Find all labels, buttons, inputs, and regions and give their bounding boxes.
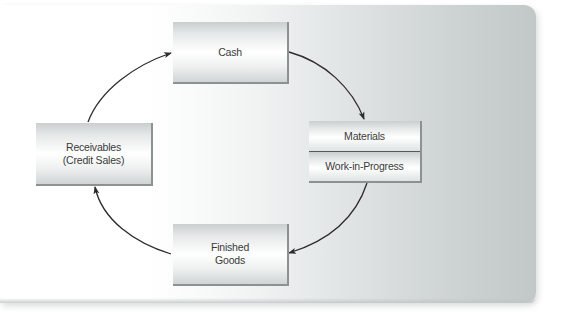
finished-goods-label-line1: Finished	[211, 241, 249, 254]
cash-box: Cash	[173, 22, 289, 84]
materials-wip-box: Materials Work-in-Progress	[309, 121, 422, 183]
panel-bottom-shadow	[0, 298, 536, 303]
receivables-label-line1: Receivables	[66, 141, 121, 154]
materials-label: Materials	[344, 130, 385, 142]
finished-goods-label-line2: Goods	[215, 254, 245, 267]
materials-section: Materials	[309, 121, 420, 151]
receivables-box: Receivables (Credit Sales)	[36, 123, 153, 186]
wip-label: Work-in-Progress	[325, 160, 403, 172]
receivables-label-line2: (Credit Sales)	[63, 154, 124, 167]
wip-section: Work-in-Progress	[309, 152, 420, 182]
finished-goods-box: Finished Goods	[173, 224, 289, 286]
cash-label: Cash	[218, 46, 242, 59]
